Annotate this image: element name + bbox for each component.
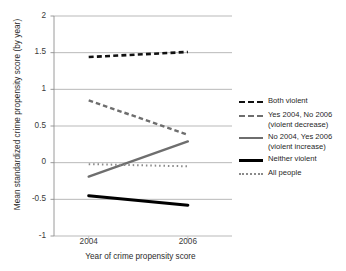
chart-legend: Both violentYes 2004, No 2006 (violent d… [238, 96, 346, 182]
series-line-4 [89, 164, 188, 166]
y-tick-label: 1 [24, 85, 46, 93]
legend-label: All people [268, 168, 301, 178]
series-line-3 [89, 196, 188, 206]
y-tick-label: -1 [24, 232, 46, 240]
legend-swatch-icon [238, 133, 264, 143]
legend-swatch-icon [238, 169, 264, 179]
y-tick-label: 1.5 [24, 48, 46, 56]
legend-item: Yes 2004, No 2006 (violent decrease) [238, 110, 346, 129]
y-tick-label: 0 [24, 158, 46, 166]
legend-item: Neither violent [238, 154, 346, 165]
legend-item: No 2004, Yes 2006 (violent increase) [238, 132, 346, 151]
x-tick-label: 2004 [69, 238, 109, 246]
y-tick-label: -0.5 [24, 195, 46, 203]
legend-label: No 2004, Yes 2006 (violent increase) [268, 132, 332, 151]
y-tick-label: 2 [24, 12, 46, 20]
legend-swatch-icon [238, 111, 264, 121]
chart-figure: Mean standardized crime propensity score… [0, 0, 346, 271]
legend-label: Neither violent [268, 154, 317, 164]
legend-swatch-icon [238, 97, 264, 107]
x-axis-title: Year of crime propensity score [48, 252, 233, 261]
legend-item: Both violent [238, 96, 346, 107]
series-line-2 [89, 141, 188, 176]
legend-label: Yes 2004, No 2006 (violent decrease) [268, 110, 332, 129]
legend-item: All people [238, 168, 346, 179]
legend-label: Both violent [268, 96, 308, 106]
series-line-1 [89, 100, 188, 134]
legend-swatch-icon [238, 155, 264, 165]
y-axis-title: Mean standardized crime propensity score… [13, 0, 22, 230]
y-tick-label: 0.5 [24, 122, 46, 130]
x-tick-label: 2006 [168, 238, 208, 246]
